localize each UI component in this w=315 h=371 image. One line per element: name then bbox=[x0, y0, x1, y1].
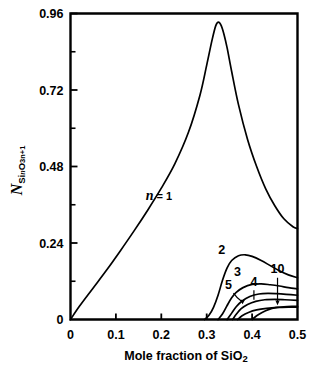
x-tick-label: 0.1 bbox=[107, 328, 124, 342]
x-tick-label: 0.3 bbox=[198, 328, 215, 342]
y-axis-title: NSinO3n+1 bbox=[8, 146, 27, 197]
y-tick-label: 0.72 bbox=[39, 84, 63, 98]
x-tick-label: 0.2 bbox=[153, 328, 170, 342]
y-tick-label: 0 bbox=[57, 313, 64, 327]
y-tick-label: 0.24 bbox=[39, 237, 63, 251]
curve-n-1 bbox=[71, 22, 298, 319]
x-axis-title: Mole fraction of SiO2 bbox=[124, 349, 247, 364]
svg-text:NSinO3n+1: NSinO3n+1 bbox=[8, 146, 27, 197]
x-tick-label: 0 bbox=[67, 328, 74, 342]
annotation-curve-5: 5 bbox=[225, 278, 232, 292]
x-tick-label: 0.4 bbox=[243, 328, 260, 342]
x-tick-label: 0.5 bbox=[289, 328, 306, 342]
annotation-curve-3: 3 bbox=[234, 265, 241, 279]
y-tick-label: 0.96 bbox=[39, 7, 63, 21]
svg-text:n= 1: n= 1 bbox=[146, 188, 172, 203]
annotation-curve-2: 2 bbox=[218, 243, 225, 257]
y-tick-label: 0.48 bbox=[39, 160, 63, 174]
annotation-curve-4: 4 bbox=[250, 275, 257, 289]
annotation-n-1: n= 1 bbox=[146, 188, 172, 203]
annotation-curve-10: 10 bbox=[271, 262, 285, 276]
curve-lower-envelope bbox=[238, 307, 298, 319]
figure-container: 00.240.480.720.9600.10.20.30.40.5Mole fr… bbox=[0, 0, 315, 371]
chart-svg: 00.240.480.720.9600.10.20.30.40.5Mole fr… bbox=[0, 0, 315, 371]
